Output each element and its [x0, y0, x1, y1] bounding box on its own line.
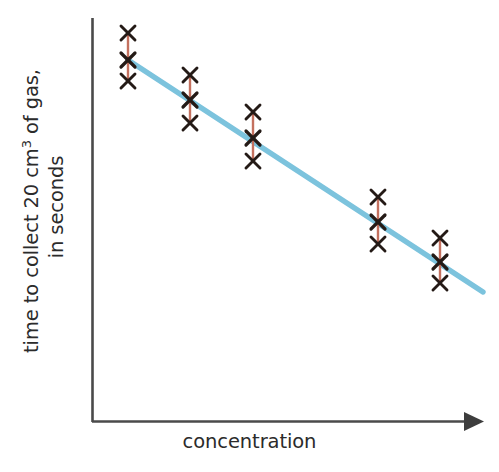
chart-figure: time to collect 20 cm3 of gas, in second… [0, 0, 499, 472]
x-axis-title: concentration [0, 432, 499, 452]
scatter-plot-canvas [0, 0, 499, 472]
data-point-group-1 [121, 26, 135, 88]
axes-group [92, 18, 484, 431]
trendline [128, 60, 483, 292]
x-axis-arrow-icon [464, 412, 484, 431]
